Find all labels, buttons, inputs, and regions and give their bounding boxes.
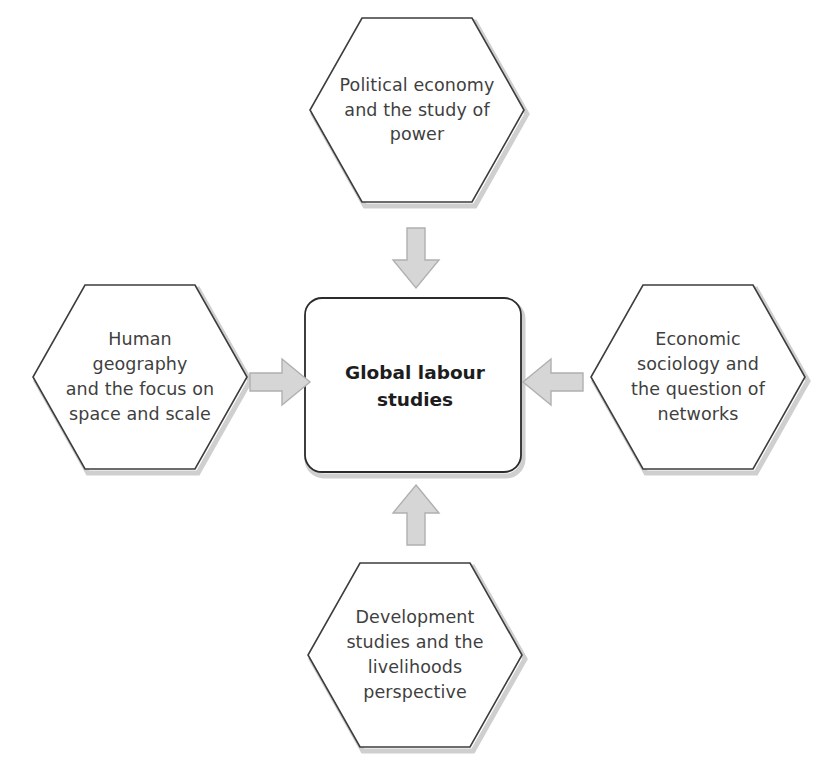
hexagon-label: Human geography and the focus on space a… xyxy=(59,281,221,473)
hexagon-node-economic-sociology[interactable]: Economic sociology and the question of n… xyxy=(587,281,809,473)
hexagon-label: Political economy and the study of power xyxy=(336,14,498,206)
hexagon-label: Economic sociology and the question of n… xyxy=(617,281,779,473)
hexagon-node-development-studies[interactable]: Development studies and the livelihoods … xyxy=(304,559,526,751)
arrow-left-icon xyxy=(521,351,583,413)
hexagon-node-political-economy[interactable]: Political economy and the study of power xyxy=(306,14,528,206)
center-node-label: Global labour studies xyxy=(318,294,512,479)
hexagon-node-human-geography[interactable]: Human geography and the focus on space a… xyxy=(29,281,251,473)
arrow-right-icon xyxy=(250,351,312,413)
arrow-down-icon xyxy=(385,228,447,290)
hexagon-label: Development studies and the livelihoods … xyxy=(334,559,496,751)
diagram-canvas: Political economy and the study of power… xyxy=(0,0,823,777)
arrow-up-icon xyxy=(385,483,447,545)
center-node-global-labour-studies[interactable]: Global labour studies xyxy=(302,294,528,479)
